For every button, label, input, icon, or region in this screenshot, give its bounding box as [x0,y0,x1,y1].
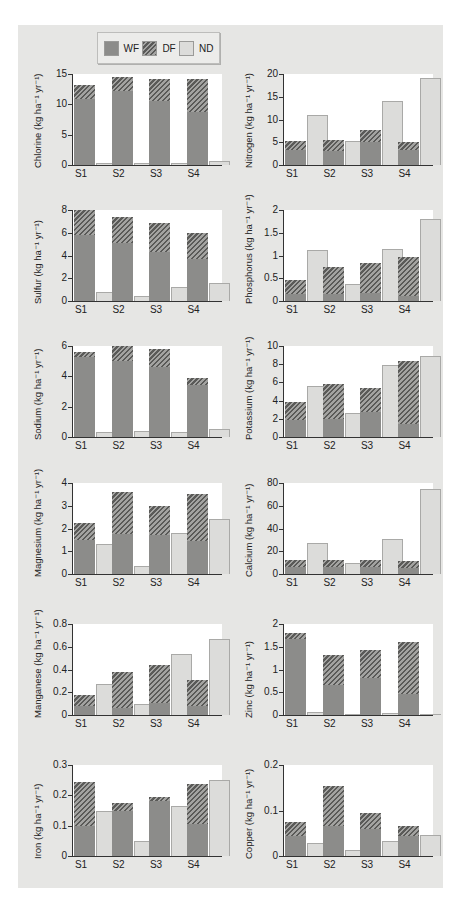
x-tick-label: S3 [357,577,377,588]
legend-item-df: DF [142,41,175,56]
y-tick [279,856,283,857]
bar-wf [285,150,306,165]
x-tick-label: S3 [357,168,377,179]
x-tick-label: S3 [146,859,166,870]
x-tick-label: S1 [71,168,91,179]
y-axis-title: Magnesium (kg ha⁻¹ yr⁻¹) [32,469,43,577]
x-tick-label: S1 [282,304,302,315]
x-tick-label: S4 [395,718,415,729]
x-tick-label: S2 [320,168,340,179]
bar-df [323,267,344,294]
plot-area [72,483,222,575]
bar-wf [187,385,208,437]
bar-nd [209,519,230,574]
bar-wf [149,101,170,165]
bar-wf [285,836,306,856]
bar-wf [398,150,419,165]
bar-df [285,633,306,638]
y-tick [279,120,283,121]
y-tick [68,437,72,438]
y-tick [279,401,283,402]
x-tick-label: S4 [395,440,415,451]
y-tick [68,647,72,648]
bar-df [398,642,419,694]
y-axis-title: Manganese (kg ha⁻¹ yr⁻¹) [32,609,43,718]
bar-wf [74,540,95,574]
plot-area [283,346,433,438]
bar-nd [209,161,230,165]
bar-wf [398,568,419,574]
y-tick [279,624,283,625]
y-tick [68,506,72,507]
y-tick [279,382,283,383]
bar-df [74,85,95,99]
bar-nd [209,639,230,715]
legend-label-nd: ND [199,43,213,54]
df-swatch-icon [142,41,157,56]
x-tick-label: S1 [71,859,91,870]
legend-item-nd: ND [179,41,213,56]
y-tick [279,165,283,166]
y-tick [279,483,283,484]
bar-df [112,217,133,243]
y-tick [68,233,72,234]
x-tick-label: S2 [320,859,340,870]
plot-area [72,74,222,166]
plot-area [72,346,222,438]
bar-df [285,560,306,567]
x-tick-label: S4 [184,577,204,588]
bar-wf [285,639,306,715]
bar-wf [285,567,306,574]
plot-area [283,483,433,575]
x-tick-label: S2 [320,718,340,729]
bar-wf [360,829,381,856]
legend-item-wf: WF [104,41,140,56]
y-tick [68,483,72,484]
bar-wf [285,420,306,437]
y-tick [279,715,283,716]
legend-label-wf: WF [124,43,140,54]
x-tick-label: S3 [357,859,377,870]
x-tick-label: S4 [184,168,204,179]
y-tick [279,301,283,302]
y-tick [279,506,283,507]
bar-wf [187,259,208,301]
y-axis-title: Chlorine (kg ha⁻¹ yr⁻¹) [32,74,43,168]
legend: WF DF ND [97,32,220,64]
bar-df [360,388,381,413]
bar-df [323,140,344,151]
bar-df [112,492,133,534]
bar-df [323,655,344,685]
chart-manganese: 00.20.40.60.8S1S2S3S4Manganese (kg ha⁻¹ … [72,624,222,716]
x-tick-label: S2 [109,440,129,451]
bar-df [74,782,95,826]
x-tick-label: S1 [282,859,302,870]
y-tick [279,233,283,234]
chart-calcium: 020406080S1S2S3S4Calcium (kg ha⁻¹ yr⁻¹) [283,483,433,575]
bar-nd [420,835,441,856]
bar-wf [187,112,208,165]
bar-nd [209,780,230,856]
y-tick [68,856,72,857]
y-tick [279,256,283,257]
bar-df [74,210,95,235]
y-tick-label: 0.3 [37,760,67,770]
bar-df [187,494,208,541]
bar-df [360,813,381,829]
bar-df [285,141,306,150]
bar-wf [323,419,344,437]
bar-df [187,680,208,706]
x-tick-label: S3 [357,304,377,315]
bar-wf [74,235,95,301]
x-tick-label: S1 [282,718,302,729]
bar-wf [74,826,95,856]
x-tick-label: S3 [146,304,166,315]
chart-magnesium: 01234S1S2S3S4Magnesium (kg ha⁻¹ yr⁻¹) [72,483,222,575]
y-axis-title: Iron (kg ha⁻¹ yr⁻¹) [32,784,43,859]
bar-df [149,797,170,802]
y-tick [279,437,283,438]
chart-potassium: 0246810S1S2S3S4Potassium (kg ha⁻¹ yr⁻¹) [283,346,433,438]
y-tick [279,74,283,75]
plot-area [72,210,222,302]
bar-df [285,402,306,419]
